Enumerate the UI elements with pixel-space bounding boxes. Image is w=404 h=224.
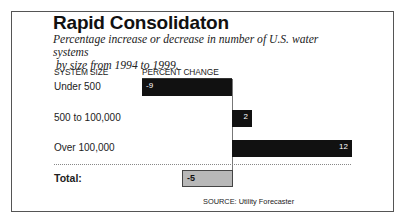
subtitle-line-1: Percentage increase or decrease in numbe… [53, 33, 318, 59]
header-system-size: SYSTEM SIZE [54, 67, 108, 77]
header-percent-change: PERCENT CHANGE [142, 67, 232, 79]
category-label-under-500: Under 500 [54, 81, 101, 92]
bar-value-label: 2 [244, 112, 248, 121]
category-label-over-100000: Over 100,000 [54, 142, 115, 153]
bar-500-to-100000: 2 [232, 110, 252, 127]
total-label: Total: [54, 172, 82, 184]
chart-title: Rapid Consolidaton [53, 12, 229, 34]
bar-under-500: -9 [142, 79, 232, 96]
source-note: SOURCE: Utility Forecaster [203, 197, 294, 206]
bar-total: -5 [182, 170, 233, 187]
total-separator [54, 164, 351, 165]
category-label-500-to-100000: 500 to 100,000 [54, 112, 121, 123]
bar-value-label: -5 [187, 173, 195, 183]
bar-value-label: -9 [146, 81, 153, 90]
bar-value-label: 12 [339, 142, 348, 151]
bar-over-100000: 12 [232, 140, 352, 157]
